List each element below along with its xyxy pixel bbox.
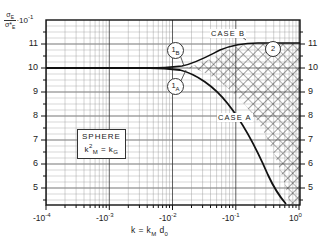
y-tick-label-6-right: 6: [308, 158, 324, 168]
annotation-1b-sub: B: [176, 50, 180, 56]
sphere-box-equation: k2M = kG: [82, 143, 121, 155]
x-tick-label-1: -10-4: [33, 212, 51, 223]
y-tick-label-10-right: 10: [308, 62, 324, 72]
annotation-1a-sub: A: [176, 86, 180, 92]
x-axis-title-tail-sub: 0: [165, 231, 169, 237]
x-tick-label-1-mantissa: -10: [33, 213, 45, 223]
y-tick-label-5-right: 5: [308, 182, 324, 192]
y-axis-multiplier-exponent: -1: [28, 14, 33, 20]
x-tick-label-3-mantissa: -10: [159, 213, 171, 223]
y-axis-ticks-right: [300, 32, 305, 200]
sphere-inset-box: SPHERE k2M = kG: [77, 129, 126, 159]
x-axis-title: k = kM d0: [131, 225, 168, 237]
sphere-eq-lhs-sub: M: [93, 149, 99, 155]
annotation-2-label: 2: [271, 44, 275, 53]
x-tick-label-4: -10-1: [222, 212, 240, 223]
x-axis-ticks: [46, 205, 299, 210]
y-tick-label-7-left: 7: [14, 134, 38, 144]
y-axis-multiplier: ·10: [16, 16, 28, 25]
sphere-eq-rhs-sub: G: [113, 149, 118, 155]
x-axis-title-lhs: k: [131, 225, 136, 235]
x-tick-label-2-mantissa: -10: [96, 213, 108, 223]
x-tick-label-3: -10-2: [159, 212, 177, 223]
y-tick-label-8-right: 8: [308, 110, 324, 120]
x-tick-label-4-mantissa: -10: [222, 213, 234, 223]
annotation-circle-1b: 1B: [167, 42, 184, 59]
y-tick-label-8-left: 8: [14, 110, 38, 120]
x-tick-label-2-exponent: -3: [108, 212, 113, 218]
sphere-box-title: SPHERE: [82, 132, 121, 141]
y-tick-label-11-right: 11: [308, 38, 324, 48]
x-tick-label-5: 100: [289, 212, 302, 223]
y-axis-label-denominator: σ*E: [4, 21, 16, 30]
y-tick-label-9-right: 9: [308, 86, 324, 96]
x-tick-label-3-exponent: -2: [171, 212, 176, 218]
label-case-a: CASE A: [217, 113, 253, 122]
x-tick-label-1-exponent: -4: [45, 212, 50, 218]
y-tick-label-5-left: 5: [14, 182, 38, 192]
x-tick-label-4-exponent: -1: [234, 212, 239, 218]
x-tick-label-5-exponent: 0: [298, 212, 301, 218]
y-axis-label: σE σ*E ·10-1: [4, 11, 33, 31]
plot-canvas: [0, 0, 328, 243]
figure-container: σE σ*E ·10-1 11 10 9 8 7 6 5 11 10 9 8 7…: [0, 0, 328, 243]
x-axis-title-rhs-sub: M: [151, 231, 156, 237]
label-case-b: CASE B: [210, 29, 246, 38]
x-tick-label-2: -10-3: [96, 212, 114, 223]
y-tick-label-9-left: 9: [14, 86, 38, 96]
y-axis-label-numerator: σE: [4, 11, 16, 21]
y-tick-label-10-left: 10: [14, 62, 38, 72]
y-axis-ticks-left: [41, 32, 46, 200]
y-tick-label-6-left: 6: [14, 158, 38, 168]
annotation-circle-1a: 1A: [167, 78, 184, 95]
sphere-eq-op: =: [101, 145, 106, 154]
x-axis-title-op: =: [138, 225, 143, 235]
y-tick-label-11-left: 11: [14, 38, 38, 48]
y-tick-label-7-right: 7: [308, 134, 324, 144]
y-axis-label-fraction: σE σ*E: [4, 11, 16, 31]
annotation-circle-2: 2: [265, 41, 281, 57]
